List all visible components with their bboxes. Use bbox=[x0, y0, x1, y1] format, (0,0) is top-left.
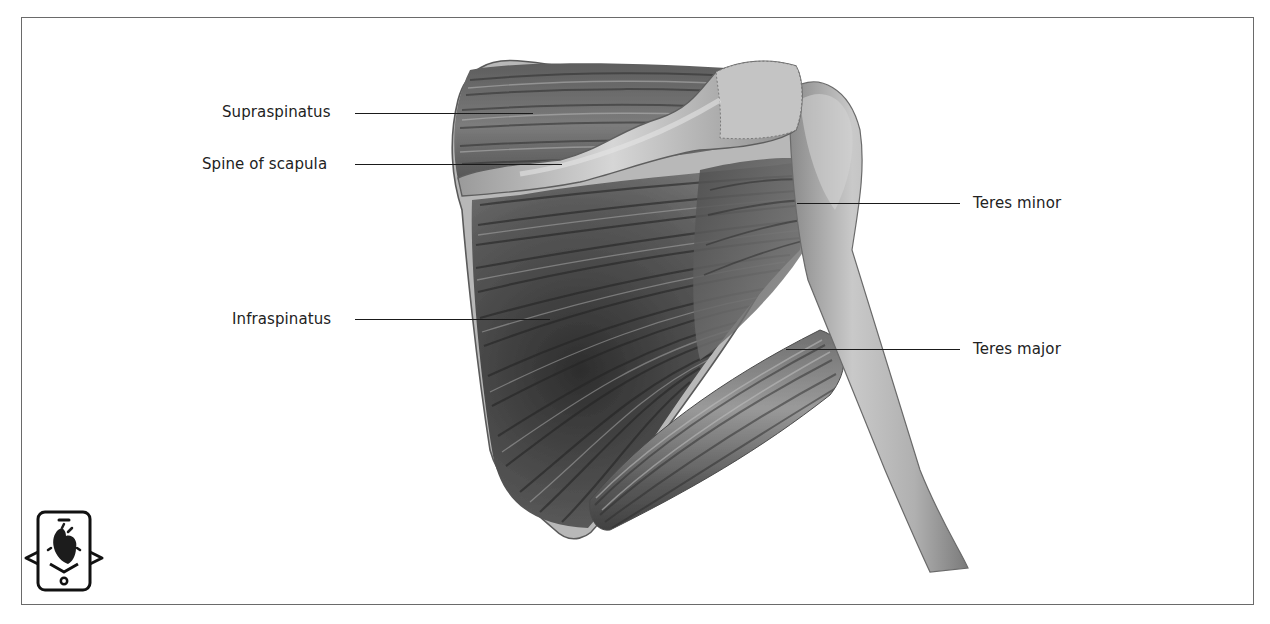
leader-line-spine-of-scapula bbox=[355, 164, 562, 165]
label-infraspinatus: Infraspinatus bbox=[232, 310, 331, 328]
leader-line-infraspinatus bbox=[355, 319, 550, 320]
label-teres-minor: Teres minor bbox=[973, 194, 1061, 212]
label-teres-major: Teres major bbox=[973, 340, 1061, 358]
label-spine-of-scapula: Spine of scapula bbox=[202, 155, 327, 173]
label-supraspinatus: Supraspinatus bbox=[222, 103, 331, 121]
leader-line-supraspinatus bbox=[355, 113, 533, 114]
shoulder-muscles-illustration bbox=[0, 0, 1270, 624]
leader-line-teres-minor bbox=[797, 203, 960, 204]
augmented-reality-phone-icon[interactable] bbox=[18, 508, 110, 594]
leader-line-teres-major bbox=[786, 349, 960, 350]
